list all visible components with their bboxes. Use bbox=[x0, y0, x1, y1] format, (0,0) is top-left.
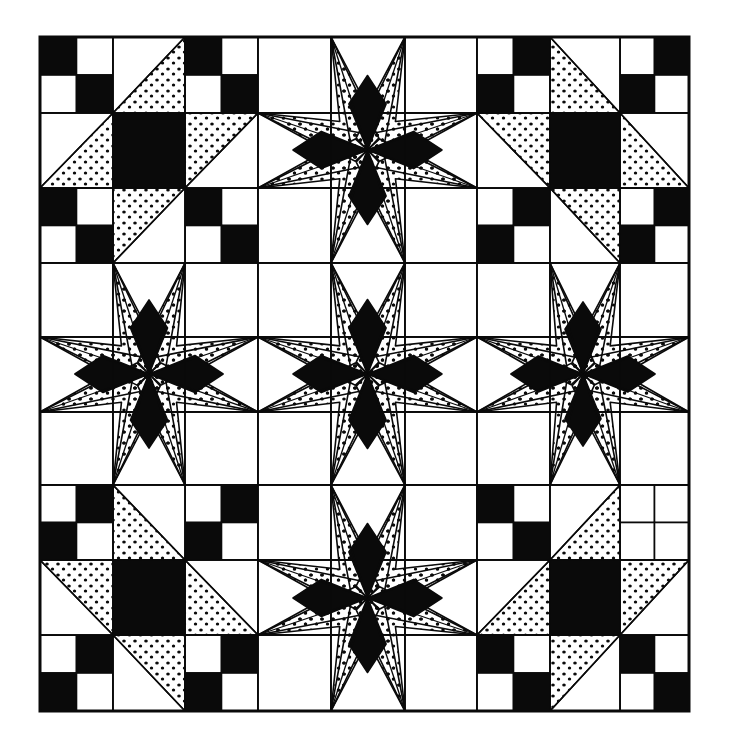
four-patch-square bbox=[222, 635, 259, 673]
four-patch-square bbox=[655, 75, 690, 113]
four-patch-square bbox=[222, 523, 259, 561]
four-patch-square bbox=[655, 523, 690, 561]
quilt-pattern-canvas bbox=[0, 0, 734, 751]
four-patch-square bbox=[655, 485, 690, 523]
four-patch-square bbox=[185, 673, 222, 711]
star-background-cell bbox=[185, 263, 258, 337]
four-patch-square bbox=[477, 485, 514, 523]
four-patch-square bbox=[40, 37, 77, 75]
four-patch-square bbox=[185, 226, 222, 264]
four-patch-square bbox=[655, 673, 690, 711]
four-patch-square bbox=[514, 188, 551, 226]
four-patch-square bbox=[77, 673, 114, 711]
star-background-cell bbox=[405, 485, 477, 560]
four-patch-square bbox=[620, 485, 655, 523]
four-patch-square bbox=[222, 75, 259, 113]
center-square bbox=[113, 113, 185, 188]
star-background-cell bbox=[477, 263, 550, 337]
star-background-cell bbox=[258, 188, 331, 263]
star-background-cell bbox=[258, 412, 331, 485]
four-patch-square bbox=[477, 75, 514, 113]
four-patch-square bbox=[477, 523, 514, 561]
four-patch-square bbox=[620, 673, 655, 711]
four-patch-square bbox=[620, 523, 655, 561]
four-patch-square bbox=[40, 485, 77, 523]
four-patch-square bbox=[620, 188, 655, 226]
four-patch-square bbox=[185, 635, 222, 673]
star-background-cell bbox=[405, 635, 477, 711]
four-patch-square bbox=[514, 75, 551, 113]
four-patch-square bbox=[40, 673, 77, 711]
center-square bbox=[550, 113, 620, 188]
star-background-cell bbox=[40, 412, 113, 485]
four-patch-square bbox=[620, 226, 655, 264]
four-patch-square bbox=[514, 226, 551, 264]
four-patch-square bbox=[40, 226, 77, 264]
four-patch-square bbox=[185, 37, 222, 75]
star-background-cell bbox=[620, 412, 689, 485]
four-patch-square bbox=[40, 75, 77, 113]
four-patch-square bbox=[655, 188, 690, 226]
four-patch-square bbox=[222, 226, 259, 264]
star-background-cell bbox=[258, 37, 331, 113]
four-patch-square bbox=[514, 37, 551, 75]
star-background-cell bbox=[258, 485, 331, 560]
four-patch-square bbox=[40, 523, 77, 561]
star-background-cell bbox=[405, 37, 477, 113]
four-patch-square bbox=[514, 523, 551, 561]
four-patch-square bbox=[477, 188, 514, 226]
four-patch-square bbox=[185, 75, 222, 113]
star-background-cell bbox=[258, 635, 331, 711]
four-patch-square bbox=[77, 485, 114, 523]
quilt-fills bbox=[40, 37, 689, 711]
star-background-cell bbox=[405, 412, 477, 485]
four-patch-square bbox=[620, 37, 655, 75]
four-patch-square bbox=[185, 485, 222, 523]
four-patch-square bbox=[655, 635, 690, 673]
four-patch-square bbox=[77, 37, 114, 75]
four-patch-square bbox=[222, 673, 259, 711]
star-background-cell bbox=[477, 412, 550, 485]
four-patch-square bbox=[477, 37, 514, 75]
four-patch-square bbox=[514, 673, 551, 711]
four-patch-square bbox=[655, 226, 690, 264]
four-patch-square bbox=[77, 75, 114, 113]
four-patch-square bbox=[514, 635, 551, 673]
four-patch-square bbox=[40, 635, 77, 673]
four-patch-square bbox=[77, 523, 114, 561]
four-patch-square bbox=[477, 635, 514, 673]
four-patch-square bbox=[185, 188, 222, 226]
four-patch-square bbox=[477, 673, 514, 711]
star-background-cell bbox=[405, 263, 477, 337]
four-patch-square bbox=[620, 635, 655, 673]
four-patch-square bbox=[77, 635, 114, 673]
four-patch-square bbox=[514, 485, 551, 523]
star-background-cell bbox=[405, 188, 477, 263]
center-square bbox=[113, 560, 185, 635]
star-background-cell bbox=[40, 263, 113, 337]
four-patch-square bbox=[77, 188, 114, 226]
four-patch-square bbox=[40, 188, 77, 226]
center-square bbox=[550, 560, 620, 635]
four-patch-square bbox=[222, 188, 259, 226]
four-patch-square bbox=[222, 485, 259, 523]
star-background-cell bbox=[620, 263, 689, 337]
star-background-cell bbox=[185, 412, 258, 485]
four-patch-square bbox=[655, 37, 690, 75]
four-patch-square bbox=[477, 226, 514, 264]
four-patch-square bbox=[77, 226, 114, 264]
four-patch-square bbox=[620, 75, 655, 113]
star-background-cell bbox=[258, 263, 331, 337]
four-patch-square bbox=[185, 523, 222, 561]
four-patch-square bbox=[222, 37, 259, 75]
